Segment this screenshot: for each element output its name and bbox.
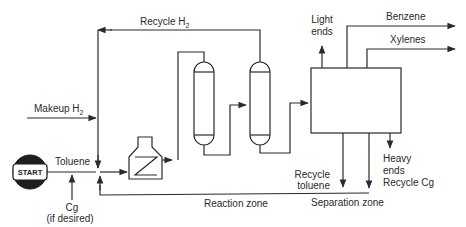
toluene-stream: Toluene	[47, 155, 127, 172]
furnace	[129, 137, 162, 179]
cg-label: Cg	[66, 202, 79, 213]
cg-feed-stream: Cg (if desired)	[46, 175, 93, 224]
start-label: START	[18, 168, 43, 177]
benzene-label: Benzene	[386, 11, 426, 22]
separator	[311, 68, 401, 133]
heavy-ends-stream: Heavy ends Recycle Cg	[383, 133, 434, 188]
makeup-h2-label: Makeup H2	[34, 103, 84, 116]
xylenes-stream: Xylenes	[367, 34, 455, 68]
svg-text:Heavy: Heavy	[383, 153, 411, 164]
toluene-label: Toluene	[55, 156, 90, 167]
recycle-h2-label: Recycle H2	[140, 16, 190, 29]
svg-text:ends: ends	[311, 26, 333, 37]
start-node: START	[13, 155, 47, 189]
xylenes-label: Xylenes	[390, 34, 426, 45]
recycle-h2-stream: Recycle H2	[98, 16, 260, 168]
recycle-toluene-stream: Recycle toluene	[294, 133, 343, 191]
svg-text:Light: Light	[311, 14, 333, 25]
reactor-1	[194, 62, 214, 145]
cg-note-label: (if desired)	[46, 213, 93, 224]
svg-text:toluene: toluene	[297, 180, 330, 191]
reactor-2	[250, 62, 270, 145]
reaction-zone-label: Reaction zone	[204, 198, 268, 209]
svg-text:Recycle Cg: Recycle Cg	[383, 177, 434, 188]
makeup-h2-stream: Makeup H2	[27, 103, 96, 118]
separation-zone-label: Separation zone	[311, 197, 384, 208]
process-flow-diagram: Recycle H2 Makeup H2 START Toluene Cg (i…	[0, 0, 466, 227]
light-ends-stream: Light ends	[311, 14, 333, 68]
svg-text:Recycle: Recycle	[294, 169, 330, 180]
svg-text:ends: ends	[383, 165, 405, 176]
